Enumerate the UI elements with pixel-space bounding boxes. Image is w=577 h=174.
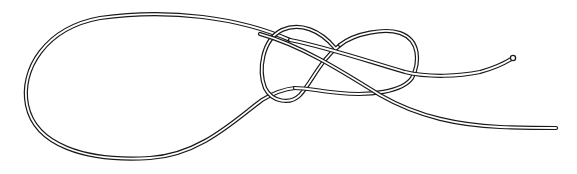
knot-drawing xyxy=(0,0,577,174)
upper-tail xyxy=(290,40,513,76)
knot-right-lobe xyxy=(295,31,417,94)
large-loop xyxy=(26,14,295,158)
rope-end-icon xyxy=(510,55,515,60)
knot-figure: Line drawing of a rope tied in a loop kn… xyxy=(0,0,577,174)
